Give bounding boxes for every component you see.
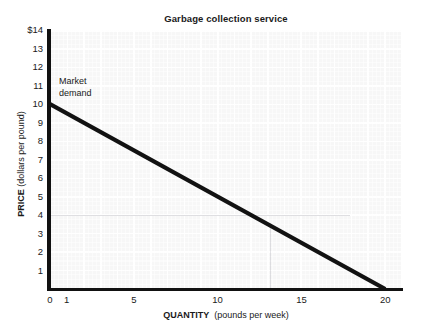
y-axis-line: [47, 29, 51, 291]
x-axis-title: QUANTITY (pounds per week): [50, 310, 402, 320]
market-demand-annotation-line1: Market: [59, 76, 92, 88]
y-tick-label: 12: [1, 62, 47, 72]
plot-area: [50, 30, 402, 289]
demand-curve-svg: [50, 30, 402, 289]
market-demand-line: [50, 104, 385, 289]
market-demand-annotation-line2: demand: [59, 88, 92, 100]
y-tick-label: $14: [1, 25, 47, 35]
y-tick-label: 13: [1, 44, 47, 54]
y-tick-label: 1: [1, 266, 47, 276]
y-axis-title-bold: PRICE: [16, 189, 26, 217]
x-axis-line: [47, 288, 403, 292]
chart-title: Garbage collection service: [50, 13, 402, 24]
market-demand-annotation: Market demand: [59, 76, 92, 99]
cropped-header-sliver: [0, 0, 425, 9]
x-tick-label: 20: [373, 295, 397, 305]
x-tick-label: 15: [289, 295, 313, 305]
y-axis-title-spacer: [16, 187, 26, 190]
y-axis-title: PRICE (dollars per pound): [16, 74, 26, 254]
x-axis-title-bold: QUANTITY: [163, 310, 209, 320]
x-tick-label: 5: [122, 295, 146, 305]
chart-page: Garbage collection service 1234567891011…: [0, 0, 425, 334]
x-tick-label: 10: [206, 295, 230, 305]
y-axis-title-rest: (dollars per pound): [16, 111, 26, 187]
x-axis-title-rest: (pounds per week): [214, 310, 289, 320]
x-tick-label: 1: [55, 295, 79, 305]
